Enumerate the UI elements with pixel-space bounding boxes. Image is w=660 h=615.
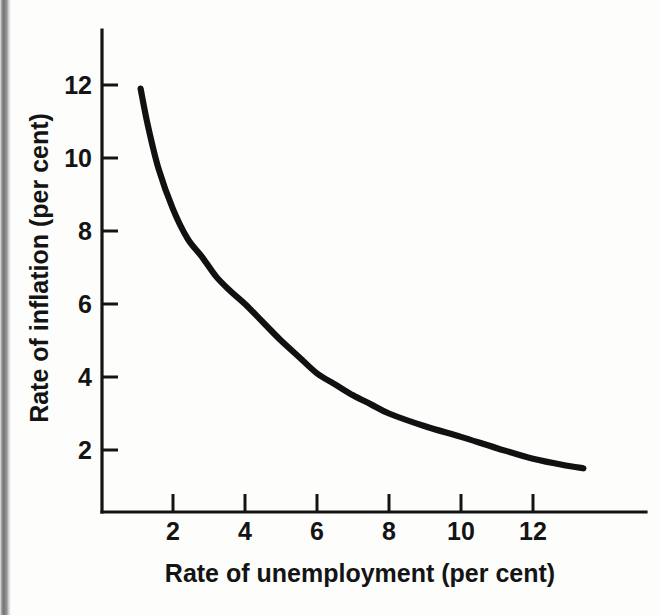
x-tick-label: 4 xyxy=(238,517,252,545)
x-tick-label: 2 xyxy=(166,517,180,545)
x-axis-ticks xyxy=(173,494,533,512)
y-tick-label: 12 xyxy=(64,71,92,99)
y-tick-label: 8 xyxy=(78,217,92,245)
phillips-curve-chart: 12 10 8 6 4 2 2 4 6 8 10 12 Rate of unem… xyxy=(0,0,660,615)
y-axis-ticks xyxy=(102,85,118,450)
x-tick-label: 6 xyxy=(310,517,324,545)
x-tick-label: 12 xyxy=(519,517,547,545)
x-tick-label: 8 xyxy=(382,517,396,545)
y-tick-label: 6 xyxy=(78,290,92,318)
y-tick-label: 4 xyxy=(78,363,92,391)
scanned-page: 12 10 8 6 4 2 2 4 6 8 10 12 Rate of unem… xyxy=(0,0,660,615)
x-axis-title: Rate of unemployment (per cent) xyxy=(165,559,555,587)
phillips-curve-line xyxy=(141,89,584,469)
y-axis-tick-labels: 12 10 8 6 4 2 xyxy=(64,71,92,464)
x-axis-tick-labels: 2 4 6 8 10 12 xyxy=(166,517,547,545)
x-tick-label: 10 xyxy=(447,517,475,545)
y-tick-label: 2 xyxy=(78,436,92,464)
chart-svg: 12 10 8 6 4 2 2 4 6 8 10 12 Rate of unem… xyxy=(0,0,660,615)
y-tick-label: 10 xyxy=(64,144,92,172)
y-axis-title: Rate of inflation (per cent) xyxy=(25,113,53,423)
